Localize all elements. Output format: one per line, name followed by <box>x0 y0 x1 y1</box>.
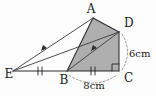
shaded-quadrilateral-ADCB <box>67 18 119 71</box>
measure-arc-6cm <box>122 34 128 70</box>
geometry-canvas: A D C B E 8cm 6cm <box>0 0 156 96</box>
measure-label-8cm: 8cm <box>83 80 105 91</box>
geometry-figure: A D C B E 8cm 6cm <box>0 0 156 96</box>
measure-label-6cm: 6cm <box>129 48 151 59</box>
vertex-label-A: A <box>86 2 96 16</box>
vertex-label-E: E <box>5 67 14 81</box>
vertex-label-B: B <box>60 73 69 87</box>
vertex-label-C: C <box>124 71 133 85</box>
vertex-label-D: D <box>124 16 134 30</box>
